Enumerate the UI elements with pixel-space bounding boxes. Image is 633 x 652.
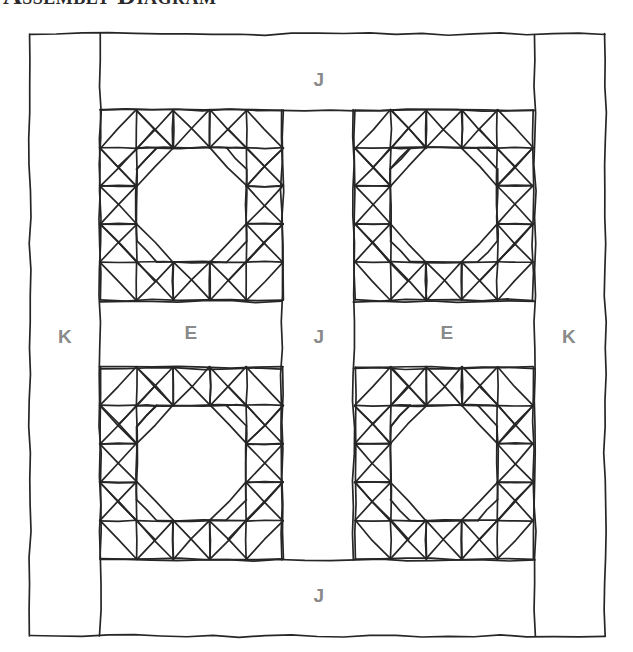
label-border-top-j: J [313,69,324,90]
label-border-bottom-j: J [313,585,324,606]
assembly-diagram-page: Assembly Diagram KEJEKJJ [0,0,633,652]
label-sashing-right-e: E [440,322,453,343]
label-border-left-k: K [58,326,72,347]
label-border-right-k: K [562,326,576,347]
label-sashing-left-e: E [184,322,197,343]
label-sashing-center-j: J [313,326,324,347]
quilt-assembly-diagram: KEJEKJJ [0,0,633,652]
